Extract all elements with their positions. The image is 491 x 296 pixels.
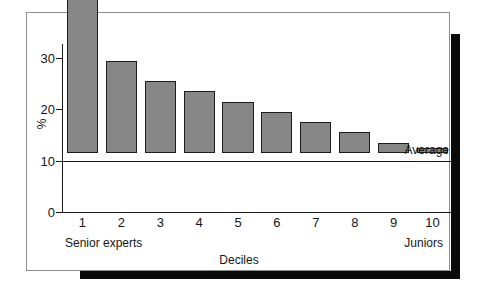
bar-decile-8: [339, 132, 370, 153]
y-axis-tick-20: [56, 109, 63, 110]
y-axis-title: %: [35, 104, 49, 144]
y-axis-tick-0: [56, 212, 63, 213]
x-axis-tick-label-6: 6: [258, 216, 297, 229]
average-line-label: Average: [405, 144, 449, 156]
y-axis-tick-label-30: 30: [15, 52, 55, 65]
x-axis-tick-label-8: 8: [335, 216, 374, 229]
average-reference-line: [63, 161, 452, 162]
bar-decile-5: [222, 102, 253, 153]
x-axis-title: Deciles: [27, 254, 451, 266]
x-axis-tick-label-7: 7: [296, 216, 335, 229]
x-axis-tick-label-5: 5: [219, 216, 258, 229]
y-axis-tick-label-0: 0: [15, 206, 55, 219]
screenshot-canvas: 0102030 % Average 12345678910 Senior exp…: [0, 0, 491, 296]
x-axis-tick-label-3: 3: [141, 216, 180, 229]
x-axis-left-endcap-label: Senior experts: [65, 237, 142, 249]
bar-decile-6: [261, 112, 292, 153]
bar-group: [63, 13, 452, 213]
bar-decile-1: [67, 0, 98, 153]
bar-chart-plot-area: 0102030 % Average 12345678910 Senior exp…: [27, 13, 451, 272]
bar-decile-3: [145, 81, 176, 153]
y-axis-tick-30: [56, 58, 63, 59]
y-axis-tick-10: [56, 161, 63, 162]
x-axis-tick-label-4: 4: [180, 216, 219, 229]
panel-drop-shadow-right: [451, 34, 460, 277]
y-axis-tick-label-10: 10: [15, 155, 55, 168]
bar-decile-7: [300, 122, 331, 153]
chart-panel: 0102030 % Average 12345678910 Senior exp…: [26, 12, 450, 271]
x-axis-tick-label-2: 2: [102, 216, 141, 229]
x-axis-tick-label-10: 10: [413, 216, 452, 229]
bar-decile-2: [106, 61, 137, 153]
bar-decile-4: [184, 91, 215, 153]
x-axis-tick-label-9: 9: [374, 216, 413, 229]
x-axis-tick-label-1: 1: [63, 216, 102, 229]
panel-drop-shadow-bottom: [80, 271, 460, 279]
x-axis-right-endcap-label: Juniors: [404, 237, 443, 249]
